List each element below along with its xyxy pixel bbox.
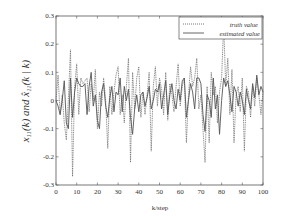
y-axis-label: x11(k) and x̂11(k | k) (19, 59, 33, 143)
x-tick-label: 80 (218, 188, 226, 196)
x-tick-label: 30 (115, 188, 123, 196)
x-tick-label: 50 (156, 188, 164, 196)
series-truth-value (56, 24, 263, 176)
y-tick-label: 0.3 (45, 12, 54, 20)
y-tick-label: 0.2 (45, 40, 54, 48)
legend-estimated-label: estimated value (219, 30, 260, 37)
x-tick-label: 10 (73, 188, 81, 196)
svg-text:x11(k) and x̂11(k | k): x11(k) and x̂11(k | k) (19, 59, 33, 143)
x-tick-label: 100 (258, 188, 269, 196)
y-tick-label: 0 (51, 97, 55, 105)
y-tick-label: -0.2 (43, 153, 55, 161)
x-axis-label: k/step (152, 204, 169, 212)
axes (56, 16, 263, 185)
y-tick-label: -0.1 (43, 125, 55, 133)
x-tick-label: 0 (54, 188, 58, 196)
x-tick-label: 40 (135, 188, 143, 196)
x-tick-label: 90 (239, 188, 247, 196)
x-tick-label: 70 (197, 188, 205, 196)
legend: truth value estimated value (179, 17, 262, 39)
y-tick-label: -0.3 (43, 181, 55, 189)
legend-truth-label: truth value (230, 21, 258, 28)
axes-frame (56, 16, 263, 185)
x-tick-label: 20 (94, 188, 102, 196)
line-chart: 0102030405060708090100 -0.3-0.2-0.100.10… (0, 0, 284, 216)
series-layer (56, 24, 263, 176)
y-tick-label: 0.1 (45, 69, 54, 77)
x-tick-label: 60 (177, 188, 185, 196)
